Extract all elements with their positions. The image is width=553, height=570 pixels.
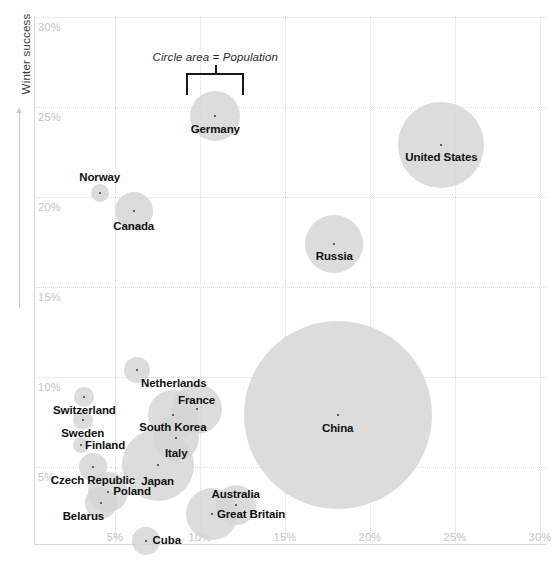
- bubble-center-dot: [337, 414, 339, 416]
- gridline-horizontal-30: [34, 17, 546, 18]
- bubble-center-dot: [133, 210, 135, 212]
- bubble-label-sweden: Sweden: [61, 427, 104, 439]
- x-tick-label: 30%: [529, 531, 552, 543]
- bubble-center-dot: [333, 243, 335, 245]
- annotation-text: Circle area = Population: [153, 51, 278, 63]
- bubble-center-dot: [107, 491, 109, 493]
- y-tick-label: 30%: [38, 21, 61, 33]
- bubble-label-russia: Russia: [316, 250, 353, 262]
- y-axis-title: Winter success: [20, 0, 32, 114]
- bubble-center-dot: [92, 466, 94, 468]
- bubble-center-dot: [80, 444, 82, 446]
- x-tick-label: 25%: [444, 531, 467, 543]
- bubble-label-belarus: Belarus: [63, 510, 105, 522]
- bubble-label-norway: Norway: [79, 171, 120, 183]
- bubble-label-italy: Italy: [165, 447, 188, 459]
- bubble-label-canada: Canada: [113, 220, 154, 232]
- gridline-vertical-30: [540, 16, 541, 545]
- bubble-label-united-states: United States: [405, 151, 477, 163]
- bubble-label-czech-republic: Czech Republic: [51, 474, 135, 486]
- bubble-center-dot: [196, 408, 198, 410]
- bubble-center-dot: [82, 419, 84, 421]
- x-tick-label: 15%: [274, 531, 297, 543]
- bubble-center-dot: [440, 144, 442, 146]
- bubble-center-dot: [100, 502, 102, 504]
- bubble-label-south-korea: South Korea: [139, 421, 206, 433]
- bubble-center-dot: [172, 414, 174, 416]
- bubble-center-dot: [211, 513, 213, 515]
- bubble-center-dot: [235, 504, 237, 506]
- y-axis-direction-arrow-icon: [19, 108, 20, 308]
- y-tick-label: 15%: [38, 291, 61, 303]
- annotation-bracket: [186, 73, 244, 95]
- gridline-horizontal-15: [34, 287, 546, 288]
- bubble-center-dot: [157, 464, 159, 466]
- bubble-label-finland: Finland: [85, 439, 125, 451]
- bubble-label-france: France: [178, 394, 215, 406]
- bubble-label-great-britain: Great Britain: [217, 508, 285, 520]
- bubble-chart: Winter success 5%10%15%20%25%30%5%10%15%…: [0, 0, 553, 570]
- bubble-center-dot: [175, 437, 177, 439]
- gridline-vertical-5: [115, 16, 116, 545]
- bubble-label-switzerland: Switzerland: [53, 404, 116, 416]
- bubble-label-china: China: [322, 422, 353, 434]
- y-tick-label: 20%: [38, 201, 61, 213]
- bubble-label-netherlands: Netherlands: [141, 377, 206, 389]
- bubble-label-cuba: Cuba: [153, 534, 181, 546]
- bubble-center-dot: [83, 396, 85, 398]
- gridline-vertical-25: [455, 16, 456, 545]
- x-tick-label: 5%: [107, 531, 124, 543]
- y-tick-label: 25%: [38, 111, 61, 123]
- bubble-label-australia: Australia: [212, 488, 260, 500]
- bubble-center-dot: [136, 369, 138, 371]
- bubble-center-dot: [145, 540, 147, 542]
- y-tick-label: 10%: [38, 381, 61, 393]
- bubble-label-poland: Poland: [113, 485, 151, 497]
- x-tick-label: 20%: [359, 531, 382, 543]
- bubble-center-dot: [99, 192, 101, 194]
- gridline-horizontal-25: [34, 107, 546, 108]
- bubble-label-germany: Germany: [191, 123, 240, 135]
- bubble-center-dot: [214, 115, 216, 117]
- gridline-horizontal-20: [34, 197, 546, 198]
